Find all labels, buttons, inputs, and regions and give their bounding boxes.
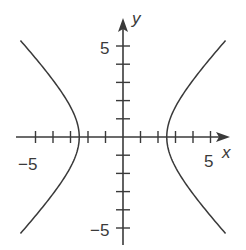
y-tick-label-neg5: −5 xyxy=(90,222,109,239)
y-axis-label: y xyxy=(132,10,141,27)
x-tick-label-5: 5 xyxy=(204,153,213,170)
x-tick-label-neg5: −5 xyxy=(18,156,37,173)
y-tick-label-5: 5 xyxy=(100,40,109,57)
hyperbola-plot xyxy=(0,0,246,250)
x-axis-label: x xyxy=(222,144,231,161)
